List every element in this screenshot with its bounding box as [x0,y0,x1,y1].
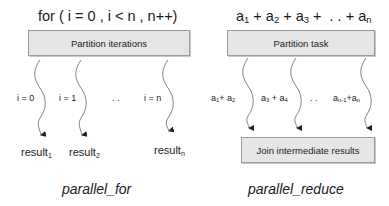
task-line-2 [291,58,302,128]
partition-task-label: Partition task [274,38,329,49]
iteration-label-in: i = n [144,93,161,103]
partial-sum-n: an-1+an [333,93,360,103]
partition-iterations-label: Partition iterations [71,38,147,49]
partial-sum-2: a3 + a4 [261,93,288,103]
partition-task-box: Partition task [227,30,375,56]
join-results-label: Join intermediate results [257,145,360,156]
result-1: result1 [21,146,52,158]
sum-header: a1 + a2 + a3 + . . + an [236,8,372,24]
result-n: resultn [154,144,185,156]
task-line-1 [243,58,254,128]
parallel-reduce-caption: parallel_reduce [248,181,344,197]
iteration-label-i0: i = 0 [17,93,34,103]
thread-line-in [163,60,174,131]
thread-line-i0 [35,60,46,135]
thread-line-i1 [76,60,87,135]
for-loop-header: for ( i = 0 , i < n , n++) [38,8,177,24]
parallel-for-caption: parallel_for [62,181,131,197]
partial-sum-1: a1+ a2 [211,93,235,103]
join-results-box: Join intermediate results [241,137,375,163]
result-2: result2 [69,146,100,158]
ellipsis-right: . . [310,93,318,103]
task-line-n [361,58,372,128]
ellipsis: . . [112,93,120,103]
iteration-label-i1: i = 1 [59,93,76,103]
partition-iterations-box: Partition iterations [28,30,190,56]
